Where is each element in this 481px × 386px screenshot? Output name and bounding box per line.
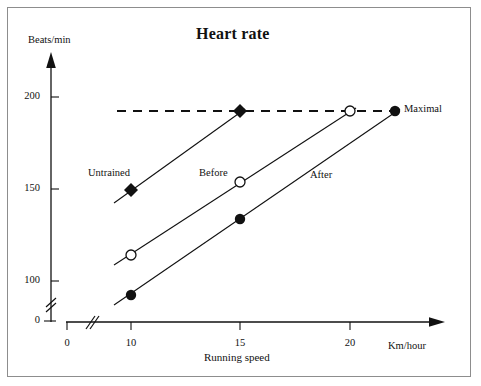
- page-title: Heart rate: [196, 26, 270, 42]
- x-tick-label-10: 10: [118, 338, 144, 349]
- marker-before-10: [126, 250, 136, 260]
- series-after: [114, 106, 400, 305]
- y-axis-unit-label: Beats/min: [28, 35, 71, 46]
- chart-figure: Heart rate Beats/min Km/hour Running spe…: [0, 0, 481, 386]
- x-axis-title: Running speed: [204, 352, 270, 363]
- maximal-annotation-label: Maximal: [404, 104, 442, 115]
- series-untrained: [114, 104, 247, 203]
- x-axis-unit-label: Km/hour: [388, 341, 426, 352]
- x-tick-label-15: 15: [227, 338, 253, 349]
- marker-after-10: [126, 290, 136, 300]
- y-tick-label-100: 100: [14, 275, 40, 286]
- marker-after-15: [235, 214, 245, 224]
- y-tick-label-150: 150: [14, 183, 40, 194]
- chart-canvas: [0, 0, 481, 386]
- marker-after-22: [390, 106, 400, 116]
- y-tick-label-200: 200: [14, 91, 40, 102]
- y-tick-label-0: 0: [14, 315, 40, 326]
- series-label-untrained: Untrained: [88, 168, 130, 179]
- x-tick-label-20: 20: [337, 338, 363, 349]
- x-tick-label-0: 0: [54, 338, 80, 349]
- series-before: [114, 106, 356, 265]
- marker-before-20: [345, 106, 355, 116]
- y-axis: [44, 52, 59, 322]
- series-label-before: Before: [199, 168, 228, 179]
- series-label-after: After: [310, 170, 332, 181]
- x-axis: [66, 316, 445, 330]
- marker-before-15: [235, 177, 245, 187]
